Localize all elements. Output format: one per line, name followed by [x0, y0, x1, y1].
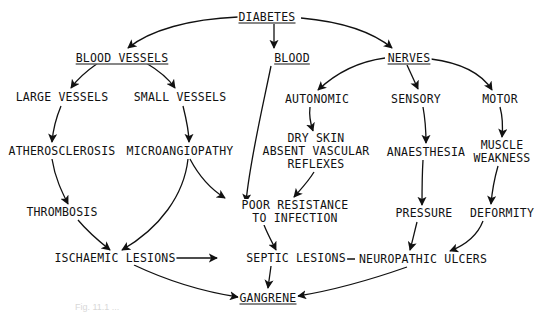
- node-label-line: DIABETES: [239, 11, 296, 24]
- node-label-line: MOTOR: [482, 93, 518, 106]
- node-large-vessels: LARGE VESSELS: [15, 91, 110, 104]
- arrow-anaesthesia-to-pressure: [422, 160, 423, 205]
- arrow-sensory-to-anaesthesia: [423, 107, 426, 143]
- node-label-line: TO INFECTION: [242, 212, 349, 225]
- node-dry-skin-absent-vascular-reflexes: DRY SKINABSENT VASCULARREFLEXES: [262, 132, 371, 171]
- node-septic-lesions: SEPTIC LESIONS: [245, 252, 347, 265]
- node-microangiopathy: MICROANGIOPATHY: [126, 145, 235, 158]
- node-label-line: WEAKNESS: [474, 152, 531, 165]
- arrow-blood_vessels-to-large_vessels: [71, 63, 98, 88]
- arrow-deformity-to-neuropathic: [450, 221, 483, 251]
- arrow-motor-to-muscle_weakness: [500, 107, 503, 137]
- node-label-line: MICROANGIOPATHY: [127, 145, 234, 158]
- node-gangrene: GANGRENE: [239, 292, 298, 305]
- node-label-line: BLOOD VESSELS: [76, 52, 169, 65]
- arrow-pressure-to-neuropathic: [410, 222, 417, 250]
- node-blood: BLOOD: [273, 52, 311, 65]
- node-label-line: BLOOD: [274, 52, 310, 65]
- node-diabetes: DIABETES: [238, 11, 297, 24]
- diabetic-gangrene-flow-diagram: DIABETES BLOOD VESSELS BLOOD NERVES LARG…: [0, 0, 538, 315]
- node-blood-vessels: BLOOD VESSELS: [75, 52, 170, 65]
- node-label-line: LARGE VESSELS: [16, 91, 109, 104]
- arrow-diabetes-to-nerves: [301, 18, 392, 48]
- arrow-poor_resistance-to-septic: [264, 225, 276, 250]
- node-autonomic: AUTONOMIC: [284, 93, 350, 106]
- arrow-neuropathic-to-gangrene: [298, 267, 407, 296]
- node-label-line: REFLEXES: [263, 158, 370, 171]
- node-deformity: DEFORMITY: [469, 207, 535, 220]
- node-label-line: THROMBOSIS: [26, 206, 97, 219]
- arrow-nerves-to-motor: [431, 59, 492, 90]
- node-label-line: ANAESTHESIA: [387, 146, 465, 159]
- node-label-line: NEUROPATHIC ULCERS: [359, 253, 487, 266]
- arrow-nerves-to-autonomic: [318, 58, 385, 90]
- arrow-thrombosis-to-ischaemic: [78, 220, 110, 250]
- node-motor: MOTOR: [481, 93, 519, 106]
- node-pressure: PRESSURE: [395, 207, 454, 220]
- arrow-muscle_weakness-to-deformity: [491, 166, 498, 204]
- arrow-ischaemic-to-gangrene: [134, 265, 238, 297]
- node-label-line: AUTONOMIC: [285, 93, 349, 106]
- arrow-diabetes-to-blood_vessels: [128, 17, 238, 48]
- node-nerves: NERVES: [387, 52, 432, 65]
- arrow-septic-to-gangrene: [268, 266, 271, 288]
- arrow-large_vessels-to-atherosclerosis: [52, 106, 61, 142]
- node-poor-resistance-to-infection: POOR RESISTANCETO INFECTION: [241, 199, 350, 225]
- node-thrombosis: THROMBOSIS: [25, 206, 98, 219]
- figure-caption: Fig. 11.1 ...: [75, 302, 119, 312]
- node-label-line: PRESSURE: [396, 207, 453, 220]
- arrow-small_vessels-to-microangiopathy: [183, 106, 189, 142]
- arrow-microangiopathy-to-poor_resistance: [190, 159, 225, 198]
- node-ischaemic-lesions: ISCHAEMIC LESIONS: [53, 252, 176, 265]
- arrow-dry_skin-to-poor_resistance: [294, 172, 314, 197]
- node-neuropathic-ulcers: NEUROPATHIC ULCERS: [358, 253, 488, 266]
- node-label-line: ATHEROSCLEROSIS: [9, 145, 116, 158]
- arrow-microangiopathy-to-ischaemic: [122, 159, 188, 250]
- node-label-line: SMALL VESSELS: [134, 91, 227, 104]
- node-small-vessels: SMALL VESSELS: [133, 91, 228, 104]
- node-label-line: GANGRENE: [240, 292, 297, 305]
- node-label-line: SENSORY: [391, 93, 441, 106]
- node-label-line: NERVES: [388, 52, 431, 65]
- arrow-atherosclerosis-to-thrombosis: [52, 159, 68, 204]
- node-muscle-weakness: MUSCLEWEAKNESS: [473, 139, 532, 165]
- node-anaesthesia: ANAESTHESIA: [386, 146, 466, 159]
- node-label-line: SEPTIC LESIONS: [246, 252, 346, 265]
- node-label-line: ISCHAEMIC LESIONS: [54, 252, 175, 265]
- node-label-line: DEFORMITY: [470, 207, 534, 220]
- arrow-autonomic-to-dry_skin: [310, 107, 313, 131]
- arrow-nerves-to-sensory: [407, 65, 418, 89]
- node-atherosclerosis: ATHEROSCLEROSIS: [8, 145, 117, 158]
- arrow-blood_vessels-to-small_vessels: [146, 63, 175, 88]
- node-sensory: SENSORY: [390, 93, 442, 106]
